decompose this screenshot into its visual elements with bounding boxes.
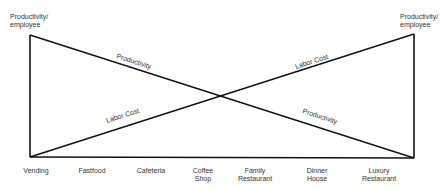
- category-luxury-restaurant: Luxury Restaurant: [351, 167, 407, 183]
- right-axis-title: Productivity/ employee: [400, 13, 438, 29]
- labor-cost-label-lower: Labor Cost: [105, 107, 140, 124]
- category-vending: Vending: [13, 167, 59, 175]
- category-family-restaurant: Family Restaurant: [227, 167, 283, 183]
- baseline: [30, 157, 414, 158]
- category-fastfood: Fastfood: [69, 167, 115, 175]
- diagram-canvas: Productivity Labor Cost Labor Cost Produ…: [0, 0, 446, 189]
- category-coffee-shop: Coffee Shop: [180, 167, 226, 183]
- labor-cost-line: [30, 34, 414, 157]
- productivity-line: [30, 35, 414, 158]
- left-axis-title: Productivity/ employee: [10, 13, 48, 29]
- category-cafeteria: Cafeteria: [128, 167, 174, 175]
- category-dinner-house: Dinner House: [294, 167, 340, 183]
